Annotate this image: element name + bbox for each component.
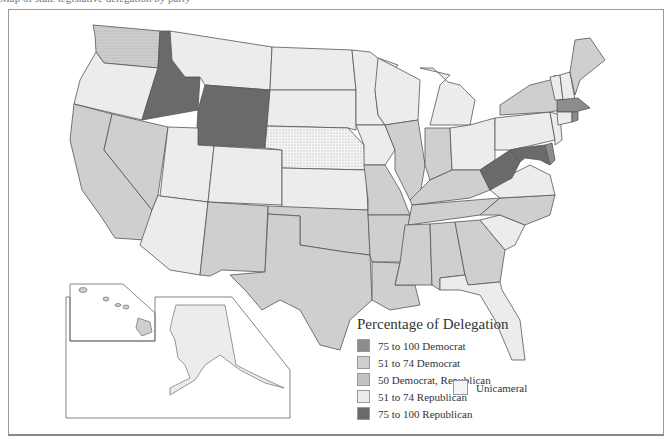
- legend-item-rep-strong: 75 to 100 Republican: [357, 405, 509, 422]
- legend: Percentage of Delegation 75 to 100 Democ…: [357, 316, 509, 422]
- hawaii: [79, 288, 152, 337]
- state-michigan: [420, 68, 475, 125]
- state-south-dakota: [267, 90, 356, 130]
- legend-item-dem-strong: 75 to 100 Democrat: [357, 337, 509, 354]
- legend-title: Percentage of Delegation: [357, 316, 509, 333]
- legend-item-dem: 51 to 74 Democrat: [357, 354, 509, 371]
- legend-label: Unicameral: [476, 382, 527, 394]
- state-wisconsin: [375, 58, 420, 125]
- state-rhode-island: [572, 112, 578, 122]
- us-map: [0, 0, 672, 439]
- legend-swatch: [357, 373, 370, 386]
- state-maine: [570, 38, 605, 95]
- state-connecticut: [557, 112, 572, 125]
- state-kansas: [282, 168, 368, 210]
- legend-swatch: [357, 390, 370, 403]
- state-wyoming: [196, 85, 270, 148]
- legend-swatch: [357, 356, 370, 369]
- legend-label: 51 to 74 Democrat: [378, 357, 460, 369]
- alaska: [170, 305, 284, 395]
- legend-item-unicameral: Unicameral: [453, 380, 527, 395]
- legend-label: 75 to 100 Democrat: [378, 340, 466, 352]
- state-colorado: [208, 146, 282, 205]
- legend-swatch: [357, 407, 370, 420]
- legend-label: 75 to 100 Republican: [378, 408, 472, 420]
- state-north-dakota: [270, 47, 356, 90]
- state-massachusetts: [557, 98, 590, 112]
- legend-swatch: [357, 339, 370, 352]
- legend-swatch: [453, 380, 468, 395]
- state-ohio: [450, 118, 495, 170]
- state-new-mexico: [200, 202, 268, 276]
